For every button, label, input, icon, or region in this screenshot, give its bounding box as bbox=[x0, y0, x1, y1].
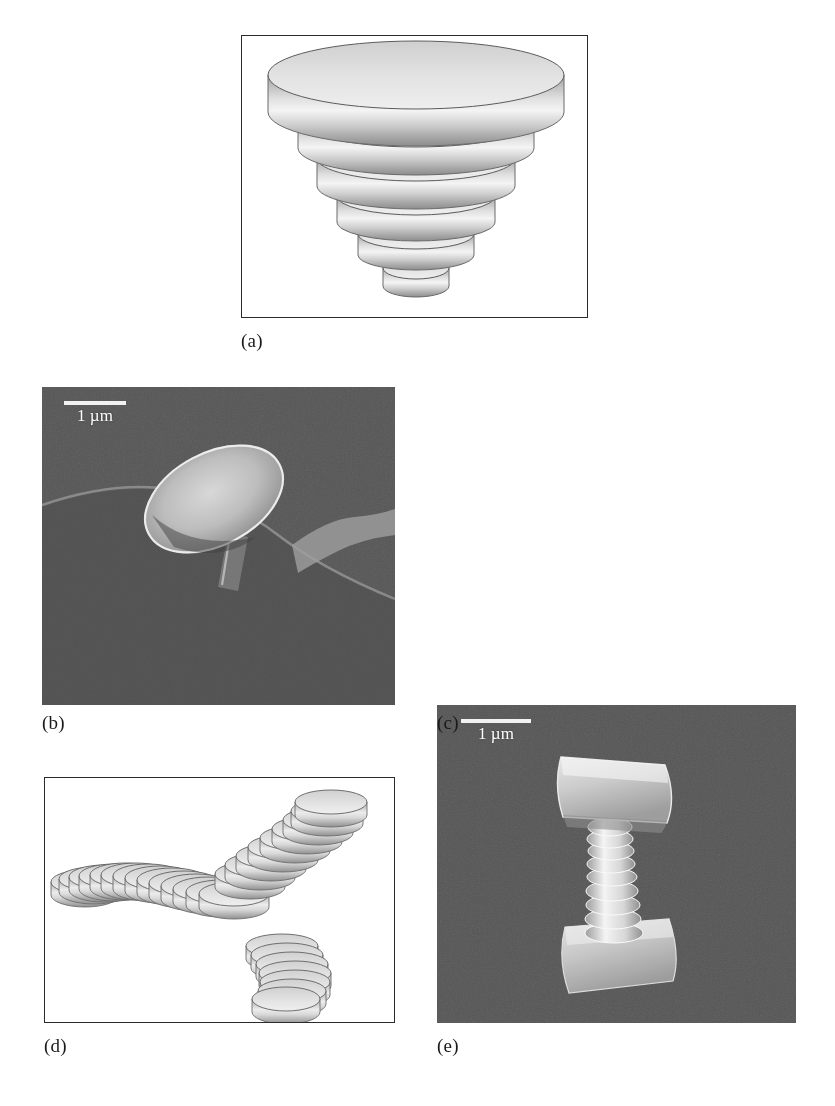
figure-root: (a) bbox=[0, 0, 835, 1106]
scalebar-line-c bbox=[461, 719, 531, 723]
panel-label-c: (c) bbox=[437, 712, 459, 734]
scalebar-label-c: 1 µm bbox=[461, 725, 531, 744]
panel-b-sem: 1 µm bbox=[42, 387, 395, 705]
scalebar-b: 1 µm bbox=[64, 401, 126, 426]
scalebar-line-b bbox=[64, 401, 126, 405]
sem-specimen-c bbox=[437, 705, 796, 1023]
panel-label-b: (b) bbox=[42, 712, 65, 734]
panel-label-d: (d) bbox=[44, 1035, 67, 1057]
stacked-disc-cone-drawing bbox=[242, 36, 587, 317]
panel-label-e: (e) bbox=[437, 1035, 459, 1057]
panel-a-schematic bbox=[241, 35, 588, 318]
disc-helix-drawing bbox=[45, 778, 395, 1023]
panel-c-sem: 1 µm bbox=[437, 705, 796, 1023]
panel-d-schematic bbox=[44, 777, 395, 1023]
cone-svg bbox=[242, 36, 588, 318]
scalebar-label-b: 1 µm bbox=[64, 407, 126, 426]
scalebar-c: 1 µm bbox=[461, 719, 531, 744]
thread-coils bbox=[585, 818, 643, 943]
panel-label-a: (a) bbox=[241, 330, 263, 352]
sem-specimen-b bbox=[42, 387, 395, 705]
disc-1 bbox=[268, 41, 564, 146]
helix-arm-upper bbox=[215, 790, 367, 899]
helix-arm-lower bbox=[246, 934, 331, 1023]
